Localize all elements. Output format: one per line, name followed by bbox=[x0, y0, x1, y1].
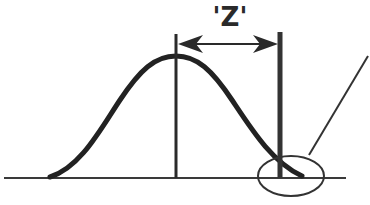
tail-callout-ellipse bbox=[258, 156, 324, 196]
z-distance-label: 'Z' bbox=[204, 2, 256, 32]
callout-leader-line bbox=[309, 56, 368, 155]
